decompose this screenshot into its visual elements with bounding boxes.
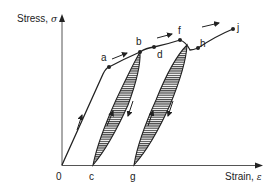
point-b-label: b: [136, 37, 142, 47]
point-j-label: j: [237, 23, 239, 33]
point-g-label: g: [130, 172, 136, 182]
point-b-marker: [138, 50, 142, 54]
arrow-h-to-j-icon: [202, 23, 219, 27]
arrow-a-to-b-icon: [112, 53, 127, 59]
x-axis-label-text: Strain,: [225, 171, 257, 182]
curve-points: [107, 27, 235, 69]
epsilon-symbol: ε: [257, 172, 262, 182]
point-d-marker: [152, 45, 156, 49]
point-f-marker: [178, 38, 182, 42]
point-j-marker: [231, 27, 235, 31]
y-axis-label: Stress, σ: [17, 14, 57, 24]
point-a-marker: [107, 65, 111, 69]
origin-label: 0: [56, 172, 62, 182]
y-axis-label-text: Stress,: [17, 13, 51, 24]
direction-arrows: [77, 23, 219, 130]
hysteresis-loop-1: [93, 52, 140, 165]
x-axis-arrow-icon: [255, 163, 263, 169]
point-a-label: a: [101, 53, 107, 63]
point-h-label: h: [200, 39, 206, 49]
hysteresis-loop-2: [134, 45, 187, 165]
sigma-symbol: σ: [51, 14, 57, 24]
y-axis-arrow-icon: [59, 14, 65, 22]
point-d-label: d: [157, 50, 163, 60]
stress-strain-diagram: [0, 0, 276, 188]
x-axis-label: Strain, ε: [225, 172, 262, 182]
point-f-label: f: [178, 26, 181, 36]
point-c-label: c: [89, 172, 94, 182]
arrow-d-to-f-icon: [157, 34, 172, 38]
